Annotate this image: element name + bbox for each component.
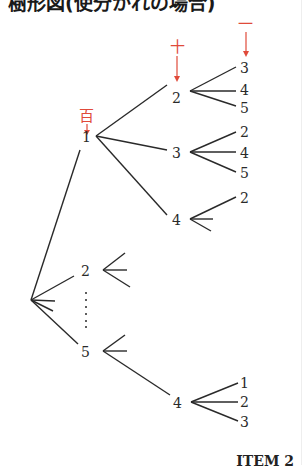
node-1-3-2: 2 (240, 124, 249, 140)
tens-label: 十 (170, 38, 185, 56)
node-2: 2 (81, 263, 90, 279)
ones-label: 一 (238, 15, 253, 33)
node-labels: 1 2 3 4 5 3 2 4 5 4 2 2 5 4 1 2 3 (81, 60, 249, 430)
tree-edges (31, 67, 238, 421)
page-edge (301, 0, 302, 465)
place-label-tens: 十 (170, 38, 185, 82)
ellipsis-dots (85, 292, 87, 328)
node-1-3-4: 4 (240, 145, 249, 161)
item-label: ITEM 2 (236, 453, 294, 469)
node-1: 1 (82, 129, 91, 145)
node-5-4-2: 2 (240, 394, 249, 410)
arrow-down-icon (243, 51, 249, 57)
node-5: 5 (81, 344, 90, 360)
arrow-down-icon (174, 76, 180, 82)
place-label-ones: 一 (238, 15, 253, 57)
node-1-2-5: 5 (240, 100, 249, 116)
node-5-4-1: 1 (240, 375, 249, 391)
node-1-2-3: 3 (240, 60, 249, 76)
node-5-4: 4 (173, 395, 182, 411)
node-1-2-4: 4 (240, 82, 249, 98)
node-1-4-2: 2 (240, 190, 249, 206)
node-1-3-5: 5 (240, 165, 249, 181)
node-1-2: 2 (172, 90, 181, 106)
node-1-4: 4 (172, 212, 181, 228)
node-1-3: 3 (172, 145, 181, 161)
hundreds-label: 百 (79, 107, 94, 125)
node-5-4-3: 3 (240, 414, 249, 430)
